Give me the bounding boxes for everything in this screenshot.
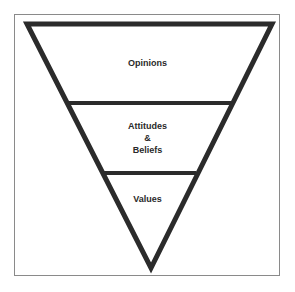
level-ampersand-label: & bbox=[0, 132, 295, 144]
level-attitudes-label: Attitudes bbox=[0, 120, 295, 132]
level-opinions-label: Opinions bbox=[0, 57, 295, 69]
level-values-label: Values bbox=[0, 193, 295, 205]
level-beliefs-label: Beliefs bbox=[0, 144, 295, 156]
